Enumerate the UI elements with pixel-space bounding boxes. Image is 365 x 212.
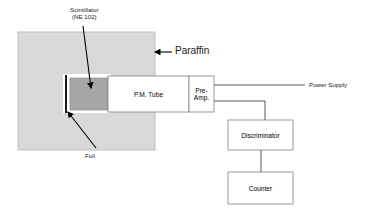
discriminator-label: Discriminator <box>228 120 293 150</box>
scintillator-annotation: Scintillator (NE 102) <box>70 6 99 20</box>
scintillator-annotation-line1: Scintillator <box>70 6 99 13</box>
preamp-label-line1: Pre- <box>195 87 207 94</box>
counter-label: Counter <box>228 172 293 204</box>
power-supply-annotation: Power Supply <box>309 81 347 88</box>
pm-tube-label: P.M. Tube <box>108 76 189 112</box>
preamp-label: Pre- Amp. <box>189 76 214 112</box>
preamp-to-discriminator-wire <box>214 101 265 120</box>
scintillator-annotation-line2: (NE 102) <box>70 13 99 20</box>
preamp-label-line2: Amp. <box>194 94 209 101</box>
scintillator-crystal <box>70 78 108 110</box>
diagram-canvas: Scintillator (NE 102) Paraffin Foil Powe… <box>0 0 365 212</box>
paraffin-annotation: Paraffin <box>175 45 209 57</box>
foil-annotation: Foil <box>85 152 95 159</box>
